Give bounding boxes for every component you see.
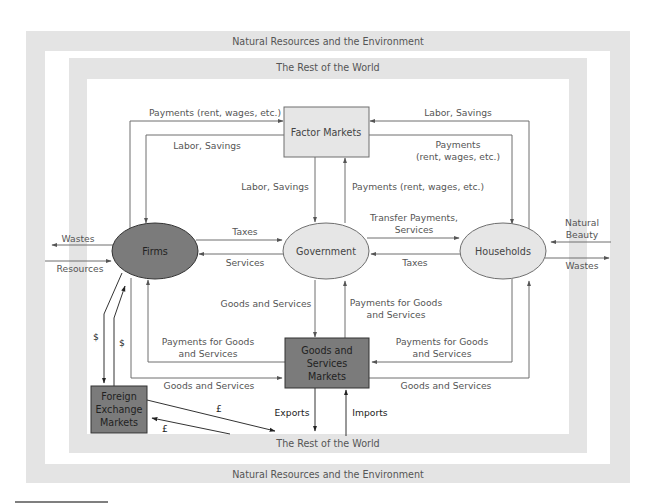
label-goods-to-firms-payments-1: Payments for Goods — [162, 336, 255, 347]
label-factor-to-gov-labor: Labor, Savings — [241, 181, 309, 192]
label-households-to-goods-payments-2: and Services — [413, 348, 472, 359]
label-gov-to-goods-payments-1: Payments for Goods — [350, 297, 443, 308]
rest-of-world-top-label: The Rest of the World — [275, 62, 379, 73]
label-firms-to-goods: Goods and Services — [164, 380, 255, 391]
label-forex-world-pound: £ — [216, 403, 222, 414]
label-goods-to-gov: Goods and Services — [221, 298, 312, 309]
forex-label-3: Markets — [100, 417, 138, 428]
forex-label-2: Exchange — [96, 404, 143, 415]
government-node: Government — [283, 223, 369, 279]
goods-markets-label-3: Markets — [308, 371, 346, 382]
label-firms-resources: Resources — [57, 263, 104, 274]
label-goods-to-firms-payments-2: and Services — [179, 348, 238, 359]
label-natural-beauty-2: Beauty — [566, 229, 599, 240]
label-firms-to-factor-payments: Payments (rent, wages, etc.) — [149, 107, 281, 118]
label-households-to-factor-labor: Labor, Savings — [424, 107, 492, 118]
label-forex-firms-dollar: $ — [119, 337, 125, 348]
label-firms-forex-dollar: $ — [93, 331, 99, 342]
circular-flow-diagram: Natural Resources and the Environment Na… — [0, 0, 655, 503]
label-firms-to-gov-taxes: Taxes — [231, 226, 258, 237]
label-natural-beauty-1: Natural — [565, 217, 599, 228]
label-gov-to-households-2: Services — [395, 224, 434, 235]
firms-node: Firms — [112, 223, 198, 279]
natural-resources-bottom-label: Natural Resources and the Environment — [232, 469, 424, 480]
factor-markets-label: Factor Markets — [291, 127, 361, 138]
label-households-wastes: Wastes — [566, 260, 599, 271]
label-exports: Exports — [275, 407, 310, 418]
label-gov-to-households-1: Transfer Payments, — [369, 212, 458, 223]
households-label: Households — [475, 246, 531, 257]
label-goods-to-households: Goods and Services — [401, 380, 492, 391]
label-imports: Imports — [352, 407, 387, 418]
label-gov-to-factor-payments: Payments (rent, wages, etc.) — [352, 181, 484, 192]
forex-label-1: Foreign — [101, 391, 137, 402]
label-factor-to-households-payments-2: (rent, wages, etc.) — [416, 151, 500, 162]
label-factor-to-firms-labor: Labor, Savings — [173, 140, 241, 151]
label-households-to-goods-payments-1: Payments for Goods — [396, 336, 489, 347]
foreign-exchange-markets-node: Foreign Exchange Markets — [91, 386, 147, 433]
goods-markets-label-2: Services — [307, 358, 347, 369]
label-world-forex-pound: £ — [162, 423, 168, 434]
rest-of-world-bottom-label: The Rest of the World — [275, 438, 379, 449]
natural-resources-top-label: Natural Resources and the Environment — [232, 36, 424, 47]
goods-markets-label-1: Goods and — [301, 345, 352, 356]
goods-services-markets-node: Goods and Services Markets — [285, 338, 369, 388]
label-firms-wastes: Wastes — [62, 233, 95, 244]
firms-label: Firms — [142, 246, 168, 257]
label-gov-to-goods-payments-2: and Services — [367, 309, 426, 320]
label-households-to-gov-taxes: Taxes — [401, 257, 428, 268]
factor-markets-node: Factor Markets — [284, 107, 369, 157]
households-node: Households — [460, 223, 546, 279]
government-label: Government — [296, 246, 356, 257]
label-factor-to-households-payments-1: Payments — [435, 139, 480, 150]
label-gov-to-firms-services: Services — [226, 257, 265, 268]
